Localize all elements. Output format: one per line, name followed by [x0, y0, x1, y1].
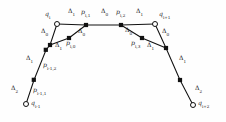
label-delta-top-0: Δ0 [101, 8, 108, 14]
label-p-im1-2: pi-1,2 [43, 62, 56, 68]
label-delta-left-2: Δ2 [11, 85, 18, 91]
label-delta-right-0b: Δ0 [162, 28, 169, 34]
label-p-i-3: pi,3 [131, 40, 140, 46]
control-marker-p-im1-2 [44, 48, 48, 52]
control-marker-p-i-3 [140, 36, 144, 40]
label-p-i-2: pi,2 [116, 9, 125, 15]
label-delta-top-1a: Δ1 [68, 8, 75, 14]
polyline-right-fan [121, 24, 155, 25]
control-marker-left-join [48, 43, 52, 47]
knot-marker-q-im1 [24, 102, 29, 107]
polyline-left-fan [57, 24, 86, 25]
label-delta-right-1a: Δ1 [147, 42, 154, 48]
label-p-im1-1: pi-1,1 [33, 87, 46, 93]
control-marker-right-join [164, 46, 168, 50]
label-delta-left-1a: Δ1 [26, 55, 33, 61]
control-marker-p-im1-1 [32, 78, 36, 82]
label-delta-top-1b: Δ1 [136, 8, 143, 14]
label-q-im1: qi-1 [31, 100, 40, 106]
label-q-ip2: qi+2 [198, 100, 209, 106]
label-delta-left-0b: Δ0 [78, 28, 85, 34]
knot-marker-q-ip2 [191, 103, 196, 108]
label-q-i: qi [45, 11, 50, 17]
bezier-control-polygon-figure: qi qi+1 qi-1 qi+2 pi-1,1 pi-1,2 pi,0 pi,… [0, 0, 226, 122]
label-q-ip1: qi+1 [159, 11, 170, 17]
polyline-right-chain [155, 24, 193, 105]
control-marker-p-i-2 [119, 23, 123, 27]
control-marker-p-ip1-2 [178, 78, 182, 82]
label-delta-left-0a: Δ0 [41, 28, 48, 34]
control-marker-p-i-1 [84, 23, 88, 27]
knot-marker-q-i [55, 22, 60, 27]
label-p-i-0: pi,0 [66, 40, 75, 46]
label-delta-right-2: Δ2 [195, 85, 202, 91]
knot-marker-q-ip1 [153, 22, 158, 27]
label-p-i-1: pi,1 [81, 9, 90, 15]
label-delta-left-1b: Δ1 [55, 42, 62, 48]
label-delta-right-0a: Δ0 [125, 27, 132, 33]
label-delta-right-1b: Δ1 [179, 55, 186, 61]
